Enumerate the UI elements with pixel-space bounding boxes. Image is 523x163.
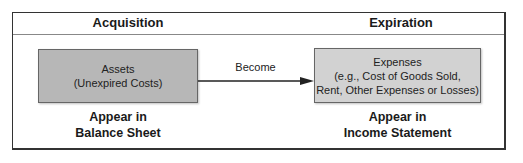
expenses-example-line1: (e.g., Cost of Goods Sold, (315, 69, 480, 83)
header-divider (13, 34, 504, 35)
assets-title: Assets (39, 62, 197, 76)
footer-left-line2: Balance Sheet (38, 125, 198, 141)
assets-subtitle: (Unexpired Costs) (39, 76, 197, 90)
footer-balance-sheet: Appear in Balance Sheet (38, 109, 198, 141)
arrow-right-icon (198, 76, 314, 86)
assets-box: Assets (Unexpired Costs) (38, 49, 198, 103)
diagram-frame: Acquisition Expiration Assets (Unexpired… (12, 12, 506, 150)
footer-left-line1: Appear in (38, 109, 198, 125)
expenses-example-line2: Rent, Other Expenses or Losses) (315, 83, 480, 97)
footer-right-line2: Income Statement (314, 125, 481, 141)
expenses-title: Expenses (315, 55, 480, 69)
expenses-box: Expenses (e.g., Cost of Goods Sold, Rent… (314, 48, 481, 103)
arrow-label: Become (213, 61, 298, 73)
header-expiration: Expiration (316, 15, 486, 30)
footer-right-line1: Appear in (314, 109, 481, 125)
header-acquisition: Acquisition (53, 15, 203, 30)
footer-income-statement: Appear in Income Statement (314, 109, 481, 141)
